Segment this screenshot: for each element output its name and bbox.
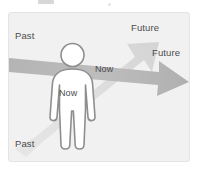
top-crop-artifact-dot [108, 3, 111, 6]
label-now-on-arrow: Now [95, 65, 113, 74]
label-past-upper: Past [15, 31, 34, 41]
label-past-lower: Past [15, 139, 34, 149]
label-now-in-body: Now [59, 89, 77, 98]
top-crop-artifact [38, 0, 54, 4]
figure-root: Past Past Future Future Now Now [0, 0, 198, 177]
label-future-diagonal: Future [131, 23, 159, 33]
time-diagram-svg [9, 13, 190, 162]
illustration-panel: Past Past Future Future Now Now [8, 12, 190, 162]
label-future-horizontal: Future [152, 48, 180, 58]
